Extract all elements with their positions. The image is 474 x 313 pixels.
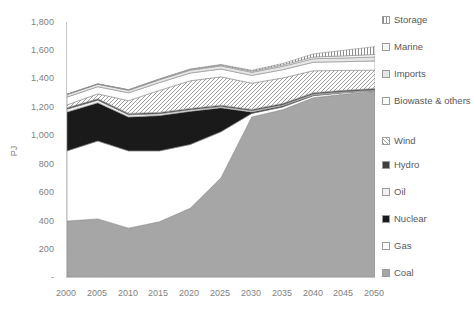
y-tick-label: 600 [14, 187, 54, 197]
legend-item-nuclear[interactable]: Nuclear [382, 213, 474, 240]
x-tick-label: 2040 [296, 288, 330, 298]
legend-item-gas[interactable]: Gas [382, 240, 474, 267]
storage-swatch-icon [382, 16, 390, 24]
legend-label: Marine [394, 41, 423, 52]
y-axis-title: PJ [9, 146, 19, 157]
x-tick-label: 2030 [234, 288, 268, 298]
x-tick-label: 2025 [203, 288, 237, 298]
y-tick-label: - [14, 272, 54, 282]
legend-item-hydro[interactable]: Hydro [382, 159, 474, 186]
coal-swatch-icon [382, 269, 390, 277]
legend-label: Storage [394, 14, 427, 25]
legend-item-wind[interactable]: Wind [382, 135, 474, 159]
marine-swatch-icon [382, 43, 390, 51]
legend-item-marine[interactable]: Marine [382, 41, 474, 68]
gas-swatch-icon [382, 242, 390, 250]
legend-item-storage[interactable]: Storage [382, 14, 474, 41]
y-tick-label: 1,000 [14, 130, 54, 140]
y-tick-label: 400 [14, 216, 54, 226]
legend-item-coal[interactable]: Coal [382, 267, 474, 294]
legend-item-imports[interactable]: Imports [382, 68, 474, 95]
x-tick-label: 2000 [49, 288, 83, 298]
y-tick-label: 1,200 [14, 102, 54, 112]
chart-figure: PJ - 200 400 600 800 1,000 1,200 1,400 1… [0, 0, 474, 313]
y-tick-label: 200 [14, 244, 54, 254]
legend-item-biowaste-others[interactable]: Biowaste & others [382, 95, 474, 135]
x-tick-label: 2010 [111, 288, 145, 298]
chart-legend: Storage Marine Imports Biowaste & others… [382, 14, 474, 294]
wind-swatch-icon [382, 137, 390, 145]
nuclear-swatch-icon [382, 215, 390, 223]
biowaste-swatch-icon [382, 97, 390, 105]
y-tick-label: 1,400 [14, 73, 54, 83]
legend-label: Oil [394, 186, 406, 197]
x-tick-label: 2015 [141, 288, 175, 298]
x-tick-label: 2045 [326, 288, 360, 298]
x-tick-label: 2020 [172, 288, 206, 298]
legend-label: Wind [394, 135, 416, 146]
y-tick-label: 1,600 [14, 45, 54, 55]
legend-label: Imports [394, 68, 426, 79]
x-tick-label: 2005 [80, 288, 114, 298]
x-tick-label: 2035 [265, 288, 299, 298]
legend-label: Gas [394, 240, 411, 251]
oil-swatch-icon [382, 188, 390, 196]
legend-label: Biowaste & others [394, 95, 471, 106]
plot-area [66, 22, 375, 278]
imports-swatch-icon [382, 70, 390, 78]
legend-label: Coal [394, 267, 414, 278]
stacked-area-plot [67, 22, 375, 277]
y-tick-label: 800 [14, 159, 54, 169]
y-tick-label: 1,800 [14, 17, 54, 27]
legend-label: Nuclear [394, 213, 427, 224]
legend-label: Hydro [394, 159, 419, 170]
legend-item-oil[interactable]: Oil [382, 186, 474, 213]
hydro-swatch-icon [382, 161, 390, 169]
